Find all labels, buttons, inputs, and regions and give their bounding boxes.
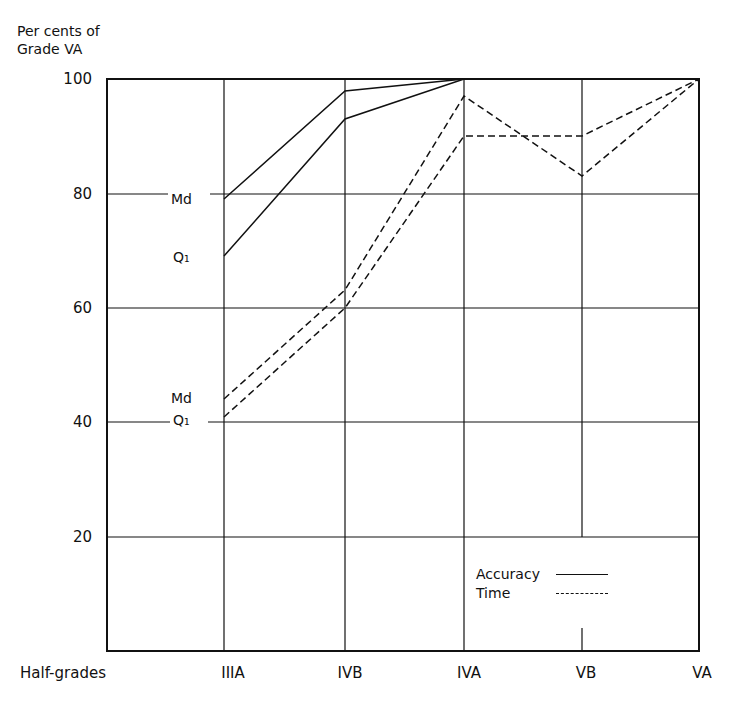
x-tick-iiia: IIIA (221, 664, 245, 682)
series-time-md (224, 79, 699, 399)
y-tick-20: 20 (32, 528, 92, 546)
x-tick-va: VA (692, 664, 712, 682)
plot-frame (107, 79, 699, 651)
y-tick-80: 80 (32, 185, 92, 203)
annotation-time-md: Md (168, 390, 195, 406)
x-tick-ivb: IVB (338, 664, 363, 682)
legend-item-time: Time (476, 584, 608, 603)
legend-label-accuracy: Accuracy (476, 565, 556, 584)
x-axis-title: Half-grades (20, 664, 106, 682)
horizontal-gridlines (107, 194, 699, 537)
annotation-accuracy-q1: Q₁ (170, 249, 193, 265)
legend-item-accuracy: Accuracy (476, 565, 608, 584)
y-tick-60: 60 (32, 299, 92, 317)
series-accuracy-q1 (224, 79, 699, 256)
solid-line-swatch-icon (556, 574, 608, 575)
annotation-time-q1: Q₁ (170, 412, 193, 428)
y-tick-100: 100 (32, 70, 92, 88)
x-tick-vb: VB (576, 664, 597, 682)
legend-label-time: Time (476, 584, 556, 603)
y-tick-40: 40 (32, 413, 92, 431)
series-time-q1 (224, 79, 699, 417)
dashed-line-swatch-icon (556, 593, 608, 594)
annotation-accuracy-md: Md (168, 191, 195, 207)
legend: Accuracy Time (476, 565, 608, 603)
chart-plot (0, 0, 731, 706)
x-tick-iva: IVA (457, 664, 481, 682)
